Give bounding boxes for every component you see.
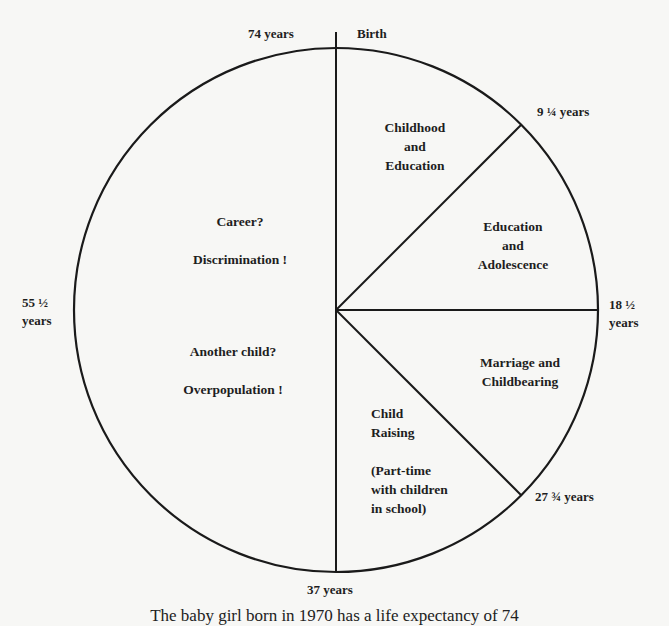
segment-marriage-childbearing: Marriage and Childbearing — [455, 353, 585, 391]
label-18-half-years: years — [609, 315, 639, 331]
segment-text: with children — [371, 480, 491, 499]
label-37-years: 37 years — [307, 582, 353, 598]
segment-text: Raising — [371, 423, 491, 442]
segment-education-adolescence: Education and Adolescence — [458, 217, 568, 274]
label-9-quarter-years: 9 ¼ years — [537, 104, 589, 120]
segment-left-half: Career? Discrimination ! — [150, 212, 330, 269]
label-18-half: 18 ½ — [609, 297, 635, 313]
segment-text: and — [458, 236, 568, 255]
label-74-years: 74 years — [248, 26, 294, 42]
label-55-half: 55 ½ — [22, 295, 48, 311]
segment-text: Adolescence — [458, 255, 568, 274]
segment-text: Childbearing — [455, 372, 585, 391]
segment-text: Marriage and — [455, 353, 585, 372]
label-27-three-quarter-years: 27 ¾ years — [535, 489, 594, 505]
segment-child-raising: Child Raising (Part-time with children i… — [371, 404, 491, 518]
segment-text: and — [360, 137, 470, 156]
life-cycle-circle-diagram — [0, 0, 669, 626]
segment-text: Discrimination ! — [150, 250, 330, 269]
segment-text: Overpopulation ! — [143, 380, 323, 399]
figure-caption: The baby girl born in 1970 has a life ex… — [0, 606, 669, 626]
segment-text: Childhood — [360, 118, 470, 137]
label-55-half-years: years — [22, 313, 52, 329]
segment-text: in school) — [371, 499, 491, 518]
segment-text: Career? — [150, 212, 330, 231]
segment-text: Child — [371, 404, 491, 423]
segment-text: Education — [458, 217, 568, 236]
segment-text: Education — [360, 156, 470, 175]
label-birth: Birth — [357, 26, 387, 42]
segment-text: Another child? — [143, 342, 323, 361]
segment-left-half-lower: Another child? Overpopulation ! — [143, 342, 323, 399]
segment-childhood-education: Childhood and Education — [360, 118, 470, 175]
segment-text: (Part-time — [371, 461, 491, 480]
